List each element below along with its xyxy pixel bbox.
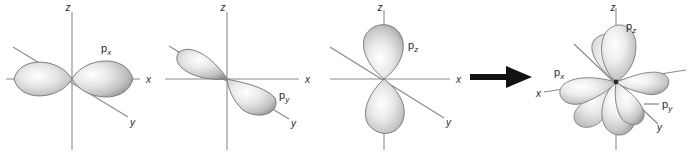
- axis-label-y: y: [656, 122, 663, 133]
- p-z-orbital-panel: z x y pz: [330, 0, 480, 159]
- orbital-lobe-positive-y: [227, 79, 276, 115]
- p-z-orbital-drawing: z x y pz: [330, 0, 480, 159]
- axis-label-z: z: [65, 2, 71, 13]
- axis-label-z: z: [377, 2, 383, 13]
- p-x-orbital-drawing: z x y px: [0, 0, 170, 159]
- orbital-lobe-positive-z: [363, 25, 403, 79]
- axis-label-x: x: [455, 74, 462, 85]
- axis-label-y: y: [445, 117, 452, 128]
- orbital-lobe-negative-z: [365, 79, 404, 133]
- p-orbital-combination-figure: z x y px: [0, 0, 690, 159]
- orbital-label-px: px: [101, 42, 112, 57]
- arrow-icon: [466, 55, 536, 100]
- orbital-lobe-negative-y: [177, 49, 227, 79]
- axis-label-z: z: [220, 2, 226, 13]
- axis-label-x: x: [535, 88, 542, 99]
- orbital-lobe-negative-x: [14, 62, 72, 96]
- axis-label-y: y: [290, 118, 297, 129]
- orbital-lobe-positive-x: [72, 61, 133, 97]
- combined-orbitals-drawing: z x y pz px py: [528, 0, 690, 159]
- combined-p-orbitals-panel: z x y pz px py: [528, 0, 690, 159]
- orbital-label-pz: pz: [408, 39, 418, 54]
- p-y-orbital-drawing: z x y py: [165, 0, 335, 159]
- axis-label-z: z: [610, 2, 616, 13]
- axis-label-y: y: [129, 117, 136, 128]
- orbital-label-px: px: [554, 66, 565, 81]
- orbital-label-py: py: [279, 89, 290, 104]
- p-x-orbital-panel: z x y px: [0, 0, 170, 159]
- axis-label-x: x: [145, 74, 152, 85]
- p-y-orbital-panel: z x y py: [165, 0, 335, 159]
- orbital-label-py: py: [662, 98, 673, 113]
- combination-arrow: [466, 55, 536, 100]
- origin-point: [614, 80, 619, 85]
- axis-label-x: x: [304, 74, 311, 85]
